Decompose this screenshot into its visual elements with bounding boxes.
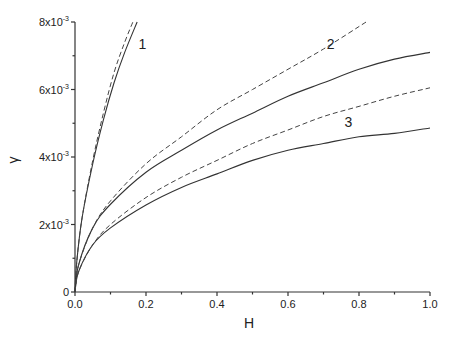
series-line-5 xyxy=(75,128,430,292)
y-tick-label: 8x10-3 xyxy=(39,15,69,28)
x-tick-label: 0.4 xyxy=(209,298,224,310)
series-line-3 xyxy=(75,52,430,292)
curve-label-3: 3 xyxy=(344,114,352,130)
axes: 0.00.20.40.60.81.002x10-34x10-36x10-38x1… xyxy=(39,15,438,310)
curve-label-1: 1 xyxy=(139,36,147,52)
y-tick-label: 2x10-3 xyxy=(39,218,69,231)
curve-labels: 123 xyxy=(139,36,353,130)
x-axis-title: H xyxy=(244,315,254,331)
series-line-4 xyxy=(75,22,366,292)
x-tick-label: 0.0 xyxy=(67,298,82,310)
x-tick-label: 0.8 xyxy=(351,298,366,310)
y-axis-title: γ xyxy=(5,157,21,164)
series-group xyxy=(75,22,430,292)
y-tick-label: 6x10-3 xyxy=(39,83,69,96)
x-tick-label: 0.6 xyxy=(280,298,295,310)
y-tick-label: 0 xyxy=(63,286,69,298)
y-tick-label: 4x10-3 xyxy=(39,150,69,163)
x-tick-label: 1.0 xyxy=(422,298,437,310)
series-line-1 xyxy=(75,22,137,292)
series-line-2 xyxy=(75,22,133,292)
series-line-6 xyxy=(75,88,430,292)
x-tick-label: 0.2 xyxy=(138,298,153,310)
curve-label-2: 2 xyxy=(327,36,335,52)
line-chart: 0.00.20.40.60.81.002x10-34x10-36x10-38x1… xyxy=(0,0,450,341)
